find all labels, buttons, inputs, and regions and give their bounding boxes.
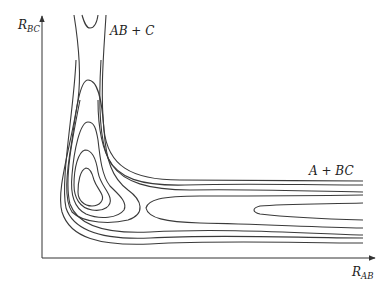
x-axis-label-main: R bbox=[352, 265, 361, 279]
contour-outer-1-top bbox=[102, 15, 363, 181]
y-axis-label: RBC bbox=[18, 18, 40, 34]
reactants-channel-label: A + BC bbox=[309, 164, 354, 178]
contour-top-u bbox=[82, 15, 98, 28]
x-axis-label: RAB bbox=[352, 265, 373, 281]
contour-outer-1 bbox=[61, 15, 363, 244]
x-axis-label-sub: AB bbox=[361, 271, 373, 281]
y-axis-label-sub: BC bbox=[27, 24, 40, 34]
contour-right-inner bbox=[254, 203, 363, 220]
contour-outer-3-top bbox=[98, 100, 363, 192]
products-channel-label: AB + C bbox=[110, 24, 154, 38]
y-axis-label-main: R bbox=[18, 18, 27, 32]
contour-diagram bbox=[0, 0, 392, 288]
